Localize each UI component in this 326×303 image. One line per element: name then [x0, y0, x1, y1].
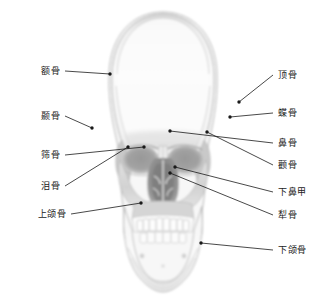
callout-label-蝶骨: 蝶骨 [278, 108, 297, 119]
leader-endpoint-dot [237, 100, 240, 103]
callout-label-犁骨: 犁骨 [278, 210, 297, 221]
callout-label-顶骨: 顶骨 [278, 70, 297, 81]
leader-endpoint-dot [90, 126, 93, 129]
callout-label-上颌骨: 上颌骨 [38, 209, 67, 220]
callout-label-下鼻甲: 下鼻甲 [278, 187, 307, 198]
leader-line [230, 113, 273, 117]
callout-label-鼻骨: 鼻骨 [278, 138, 297, 149]
leader-line [65, 116, 92, 128]
leader-endpoint-dot [228, 115, 231, 118]
skull-radiograph-image [98, 8, 228, 296]
skull-anatomy-figure: 额骨颞骨筛骨泪骨上颌骨顶骨蝶骨鼻骨颧骨下鼻甲犁骨下颌骨 [0, 0, 326, 303]
callout-label-泪骨: 泪骨 [41, 181, 60, 192]
leader-line [239, 75, 273, 102]
callout-label-额骨: 额骨 [41, 66, 60, 77]
callout-label-下颌骨: 下颌骨 [278, 245, 307, 256]
callout-label-筛骨: 筛骨 [41, 150, 60, 161]
callout-label-颞骨: 颞骨 [41, 111, 60, 122]
callout-label-颧骨: 颧骨 [278, 160, 297, 171]
